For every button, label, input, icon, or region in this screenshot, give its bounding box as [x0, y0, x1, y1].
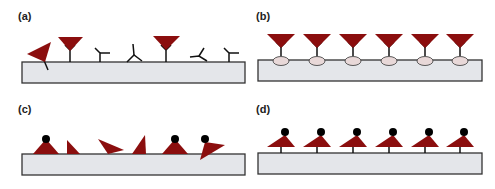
substrate-a [22, 62, 245, 83]
antigen [27, 42, 51, 62]
panel-a [22, 36, 245, 83]
antibody-bound [153, 36, 180, 62]
antigen [58, 37, 83, 51]
antigen [153, 36, 180, 50]
panel-b [258, 34, 482, 81]
panel-d [258, 128, 482, 174]
substrate-c [22, 154, 245, 175]
antibody-bound [58, 37, 83, 62]
antibody-free [190, 48, 207, 61]
substrate-b [258, 60, 482, 81]
antibody-free [224, 48, 239, 62]
oriented-tagged-row [267, 128, 474, 153]
panel-c [22, 135, 245, 175]
diagram-canvas [0, 0, 495, 189]
antibody-free [127, 44, 142, 62]
substrate-d [258, 153, 482, 174]
antibody-free [95, 48, 110, 62]
